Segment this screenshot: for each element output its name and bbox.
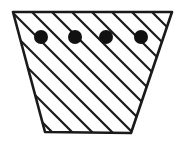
trapezoid-figure: Hatched trapezoid with four dots Line dr… (0, 0, 187, 150)
dot-1 (34, 30, 48, 44)
dot-3 (99, 30, 113, 44)
figure-container: Hatched trapezoid with four dots Line dr… (0, 0, 187, 150)
dot-2 (68, 30, 82, 44)
dot-4 (134, 30, 148, 44)
